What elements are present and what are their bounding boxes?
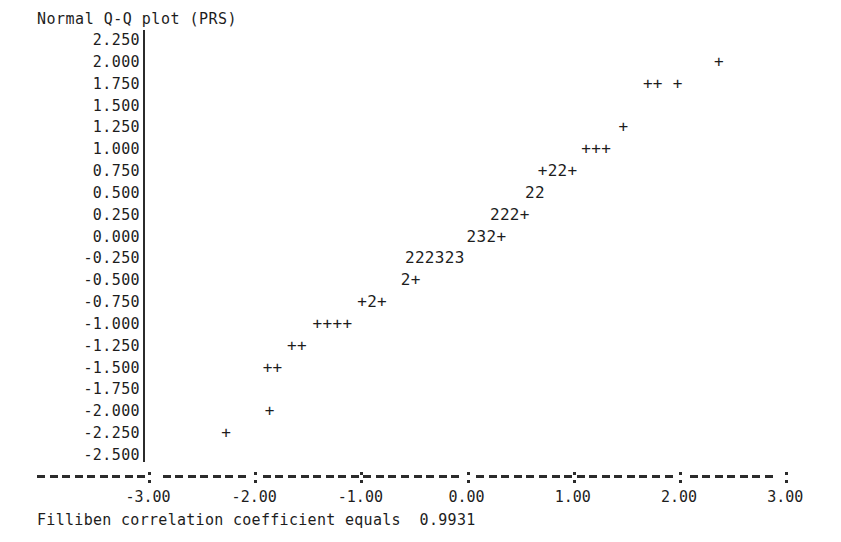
data-marker-row: +22+ [538, 163, 578, 179]
axis-dash [702, 475, 710, 478]
data-marker-row: + [714, 54, 724, 70]
plot-data-area: +++ ++++++22+22222+232+2223232++2+++++++… [0, 0, 841, 470]
axis-dash [263, 475, 271, 478]
axis-dash [137, 475, 145, 478]
data-marker-row: 22 [525, 185, 545, 201]
axis-dash [439, 475, 447, 478]
axis-dash [288, 475, 296, 478]
axis-dash [690, 475, 698, 478]
axis-dash [589, 475, 597, 478]
axis-dash [213, 475, 221, 478]
data-marker-row: + [265, 403, 275, 419]
axis-dash [188, 475, 196, 478]
data-marker-row: 2+ [401, 272, 421, 288]
x-axis-tick [360, 470, 363, 483]
x-axis-tick [148, 470, 151, 483]
axis-dash [414, 475, 422, 478]
axis-dash [313, 475, 321, 478]
x-tick-label: 3.00 [767, 488, 803, 506]
x-tick-label: -1.00 [338, 488, 383, 506]
data-marker-row: + [221, 425, 231, 441]
axis-dash [564, 475, 572, 478]
x-axis-tick-labels: -3.00-2.00-1.000.001.002.003.00 [0, 488, 841, 506]
axis-dash [765, 475, 773, 478]
axis-dash [614, 475, 622, 478]
axis-dash [50, 475, 58, 478]
axis-dash [125, 475, 133, 478]
axis-dash [740, 475, 748, 478]
x-axis-tick [573, 470, 576, 483]
axis-dash [627, 475, 635, 478]
data-marker-row: + [618, 119, 628, 135]
axis-dash [426, 475, 434, 478]
data-marker-row: +2+ [357, 294, 387, 310]
axis-dash [225, 475, 233, 478]
data-marker-row: 232+ [467, 229, 507, 245]
figure-caption: Filliben correlation coefficient equals … [37, 511, 476, 529]
data-marker-row: ++++ [313, 316, 353, 332]
axis-dash [639, 475, 647, 478]
x-tick-label: 2.00 [661, 488, 697, 506]
axis-dash [200, 475, 208, 478]
axis-dash [100, 475, 108, 478]
axis-dash [727, 475, 735, 478]
axis-dash [602, 475, 610, 478]
data-marker-row: 222+ [490, 207, 530, 223]
axis-dash [501, 475, 509, 478]
axis-dash [552, 475, 560, 478]
axis-dash [62, 475, 70, 478]
qq-plot-figure: Normal Q-Q plot (PRS) 2.2502.0001.7501.5… [0, 0, 841, 542]
axis-dash [388, 475, 396, 478]
axis-dash [665, 475, 673, 478]
x-tick-label: 0.00 [449, 488, 485, 506]
data-marker-row: 222323 [405, 250, 465, 266]
axis-dash [87, 475, 95, 478]
x-axis-tick [467, 470, 470, 483]
axis-dash [363, 475, 371, 478]
x-axis-tick [785, 470, 788, 483]
axis-dash [338, 475, 346, 478]
axis-dash [37, 475, 45, 478]
axis-dash [476, 475, 484, 478]
data-marker-row: +++ [581, 141, 611, 157]
axis-dash [163, 475, 171, 478]
axis-dash [577, 475, 585, 478]
axis-dash [652, 475, 660, 478]
x-axis-tick [254, 470, 257, 483]
axis-dash [376, 475, 384, 478]
axis-dash [301, 475, 309, 478]
x-tick-label: -3.00 [125, 488, 170, 506]
x-tick-label: 1.00 [555, 488, 591, 506]
axis-dash [175, 475, 183, 478]
axis-dash [75, 475, 83, 478]
axis-dash [514, 475, 522, 478]
x-tick-label: -2.00 [232, 488, 277, 506]
data-marker-row: ++ [287, 338, 307, 354]
data-marker-row: ++ + [643, 76, 683, 92]
axis-dash [539, 475, 547, 478]
axis-dash [112, 475, 120, 478]
x-axis-tick [679, 470, 682, 483]
axis-dash [715, 475, 723, 478]
axis-dash [238, 475, 246, 478]
axis-dash [451, 475, 459, 478]
axis-dash [752, 475, 760, 478]
x-axis-line [37, 470, 789, 484]
data-marker-row: ++ [263, 360, 283, 376]
axis-dash [275, 475, 283, 478]
axis-dash [401, 475, 409, 478]
axis-dash [526, 475, 534, 478]
axis-dash [351, 475, 359, 478]
axis-dash [489, 475, 497, 478]
axis-dash [326, 475, 334, 478]
